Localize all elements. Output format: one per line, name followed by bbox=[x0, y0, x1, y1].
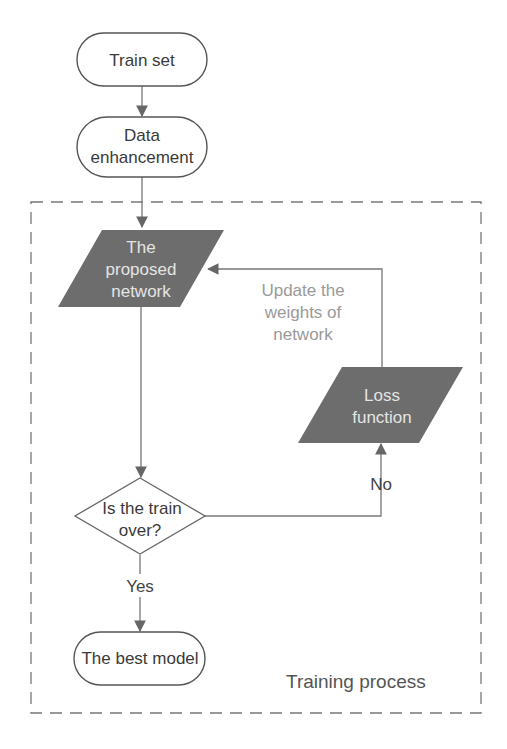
training-process-label: Training process bbox=[286, 671, 426, 692]
node-decision-label-1: Is the train bbox=[102, 499, 181, 518]
node-loss-function-label-2: function bbox=[352, 408, 412, 427]
node-loss-function: Loss function bbox=[298, 367, 463, 443]
edge-label-no: No bbox=[370, 475, 392, 494]
node-decision-label-2: over? bbox=[119, 521, 162, 540]
node-train-set: Train set bbox=[77, 33, 207, 86]
node-best-model-label: The best model bbox=[81, 649, 198, 668]
node-proposed-network-label-3: network bbox=[111, 282, 171, 301]
node-best-model: The best model bbox=[74, 632, 205, 685]
node-data-enhancement-label-1: Data bbox=[124, 126, 160, 145]
edge-label-yes: Yes bbox=[126, 577, 154, 596]
node-train-set-label: Train set bbox=[109, 51, 175, 70]
node-proposed-network-label-1: The bbox=[126, 238, 155, 257]
node-proposed-network-label-2: proposed bbox=[106, 260, 177, 279]
edge-label-update-line1: Update the bbox=[261, 281, 344, 300]
edge-decision-to-loss bbox=[205, 444, 381, 516]
node-data-enhancement: Data enhancement bbox=[77, 117, 207, 177]
node-loss-function-label-1: Loss bbox=[364, 386, 400, 405]
edge-label-update-line2: weights of bbox=[264, 303, 342, 322]
node-data-enhancement-label-2: enhancement bbox=[90, 148, 193, 167]
node-proposed-network: The proposed network bbox=[58, 230, 224, 307]
flowchart-diagram: Training process No Yes Update the weigh… bbox=[0, 0, 507, 749]
node-decision: Is the train over? bbox=[75, 478, 205, 554]
page-ghosting bbox=[255, 0, 507, 70]
edge-label-update-line3: network bbox=[273, 325, 333, 344]
